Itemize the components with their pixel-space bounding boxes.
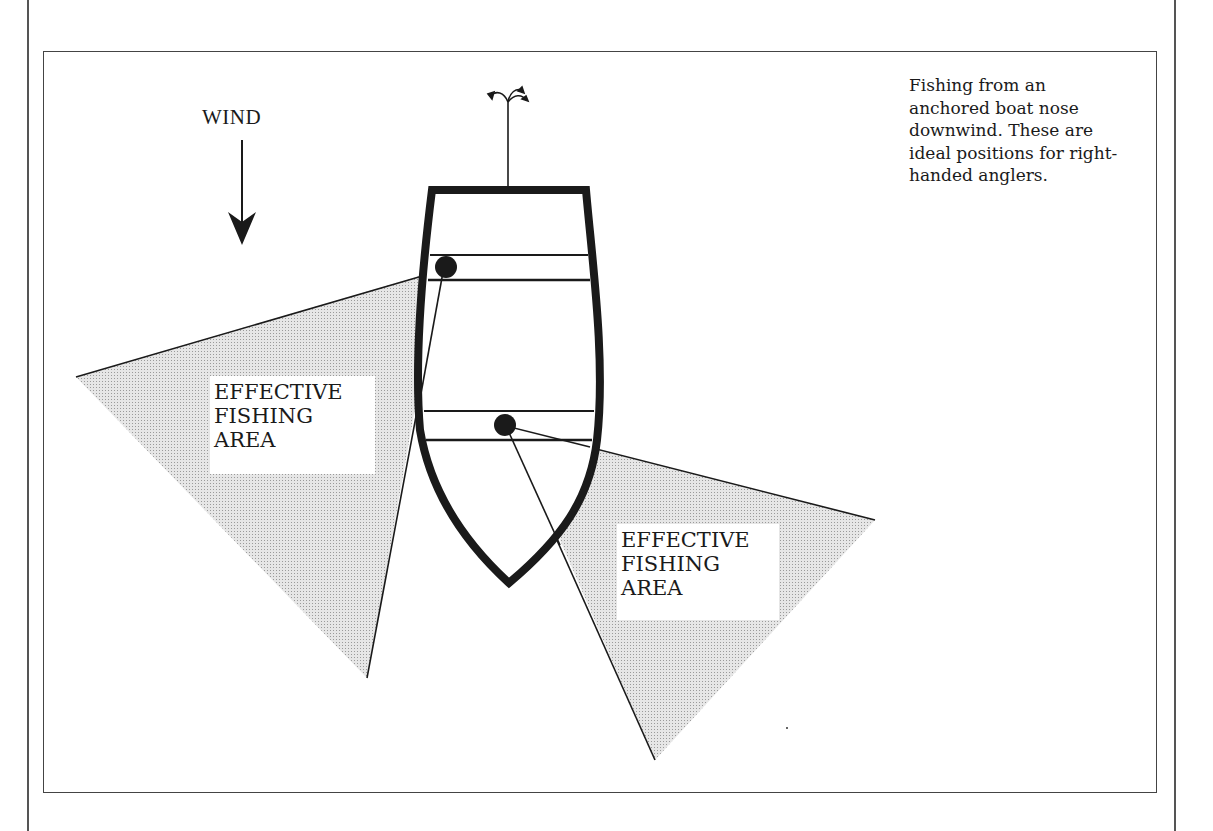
area-label-line: AREA xyxy=(621,576,771,600)
effective-fishing-area-label-right: EFFECTIVE FISHING AREA xyxy=(617,524,779,620)
angler-rear xyxy=(494,414,516,436)
caption-line: downwind. These are xyxy=(909,119,1159,142)
caption-line: ideal positions for right- xyxy=(909,142,1159,165)
caption-line: Fishing from an xyxy=(909,74,1159,97)
arrow-down-icon xyxy=(228,140,256,245)
area-label-line: AREA xyxy=(214,428,367,452)
area-label-line: FISHING xyxy=(214,404,367,428)
wind-label: WIND xyxy=(202,105,261,130)
angler-front xyxy=(435,256,457,278)
area-label-line: EFFECTIVE xyxy=(621,528,771,552)
area-label-line: FISHING xyxy=(621,552,771,576)
effective-fishing-area-label-left: EFFECTIVE FISHING AREA xyxy=(210,376,375,474)
caption-line: anchored boat nose xyxy=(909,97,1159,120)
figure-caption: Fishing from an anchored boat nose downw… xyxy=(909,74,1159,187)
anchor-rope-icon xyxy=(488,87,528,187)
area-label-line: EFFECTIVE xyxy=(214,380,367,404)
caption-line: handed anglers. xyxy=(909,164,1159,187)
fishing-area-left xyxy=(76,272,443,678)
